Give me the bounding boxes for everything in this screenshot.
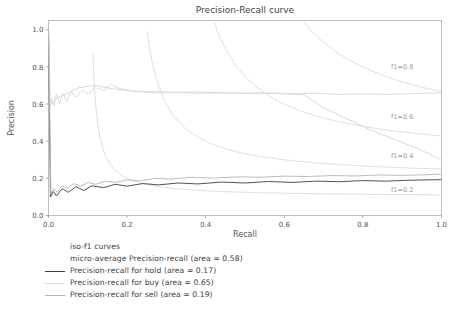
y-tick-label: 0.0 [32,212,43,220]
iso-f1-curves [93,22,442,195]
legend-item[interactable]: Precision-recall for sell (area = 0.19) [44,289,243,300]
legend-item-label: iso-f1 curves [66,242,120,251]
y-tick-label: 0.6 [32,101,44,109]
y-axis-ticks: 0.00.20.40.60.81.0 [32,26,48,220]
data-series-group [49,30,442,197]
legend-item[interactable]: Precision-recall for hold (area = 0.17) [44,265,243,276]
legend-item-label: Precision-recall for buy (area = 0.65) [66,278,214,287]
series-line [49,30,442,197]
iso-f1-curve [304,22,441,91]
x-tick-label: 0.8 [357,221,368,229]
y-tick-label: 0.4 [32,138,44,146]
x-tick-label: 0.0 [43,221,54,229]
x-tick-label: 0.2 [122,221,133,229]
legend-color-swatch [44,241,66,252]
legend-color-swatch [44,265,66,276]
y-tick-label: 1.0 [32,26,43,34]
x-axis-label: Recall [233,230,257,239]
iso-f1-label: f1=0.6 [391,113,413,121]
iso-f1-label: f1=0.4 [391,152,413,160]
precision-recall-figure: Precision-Recall curve 0.00.20.40.60.81.… [0,0,461,313]
x-tick-label: 0.6 [279,221,291,229]
legend-color-swatch [44,277,66,288]
iso-f1-curve [147,31,442,169]
iso-f1-curve [93,53,442,194]
y-axis-label: Precision [7,100,16,136]
legend-item[interactable]: iso-f1 curves [44,241,243,252]
y-tick-label: 0.8 [32,64,43,72]
chart-title: Precision-Recall curve [196,5,295,15]
legend-item-label: micro-average Precision-recall (area = 0… [66,254,243,263]
y-tick-label: 0.2 [32,175,43,183]
axis-labels: RecallPrecision [7,100,257,238]
iso-f1-label: f1=0.8 [391,63,413,71]
iso-f1-annotations: f1=0.8f1=0.6f1=0.4f1=0.2 [391,63,413,195]
series-line [49,30,442,108]
x-tick-label: 0.4 [200,221,212,229]
x-axis-ticks: 0.00.20.40.60.81.0 [43,216,447,229]
series-line [49,30,442,194]
legend-color-swatch [44,289,66,300]
x-tick-label: 1.0 [436,221,447,229]
chart-title-group: Precision-Recall curve [196,5,295,15]
iso-f1-label: f1=0.2 [391,186,413,194]
legend-item[interactable]: micro-average Precision-recall (area = 0… [44,253,243,264]
legend-color-swatch [44,253,66,264]
legend-item[interactable]: Precision-recall for buy (area = 0.65) [44,277,243,288]
legend-item-label: Precision-recall for sell (area = 0.19) [66,290,213,299]
legend-item-label: Precision-recall for hold (area = 0.17) [66,266,216,275]
chart-legend: iso-f1 curvesmicro-average Precision-rec… [44,241,243,300]
